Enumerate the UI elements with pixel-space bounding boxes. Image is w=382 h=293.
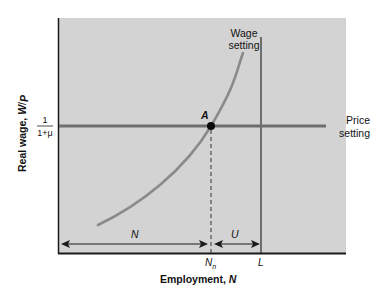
- x-tick-natural-employment: Nn: [205, 257, 216, 272]
- y-tick-numerator: 1: [42, 115, 48, 126]
- price-setting-label-line1: Price: [326, 114, 370, 127]
- plot-panel: [58, 18, 346, 253]
- y-axis-title-p: P: [18, 95, 30, 102]
- y-axis-title: Real wage, W/P: [17, 74, 28, 194]
- unemployment-arrow-label: U: [231, 229, 239, 240]
- wage-setting-label-line1: Wage: [223, 27, 265, 39]
- wage-setting-label: Wage setting: [223, 27, 265, 51]
- price-setting-label: Price setting: [326, 114, 370, 140]
- point-a-label: A: [201, 110, 209, 121]
- x-tick-labor-force: L: [258, 257, 264, 268]
- x-axis-title-n: N: [229, 273, 237, 285]
- x-axis-title: Employment, N: [160, 274, 236, 285]
- diagram-canvas: [0, 0, 382, 293]
- price-setting-label-line2: setting: [326, 127, 370, 140]
- x-axis-title-prefix: Employment,: [160, 273, 229, 285]
- employment-arrow-label: N: [131, 229, 139, 240]
- y-axis-title-slash: /: [16, 102, 28, 105]
- x-tick-nn-sub: n: [212, 263, 216, 270]
- wage-setting-label-line2: setting: [223, 39, 265, 51]
- y-axis-title-w: W: [16, 105, 28, 115]
- y-axis-title-prefix: Real wage,: [16, 115, 28, 172]
- equilibrium-point-a: [207, 122, 215, 130]
- y-tick-denominator: 1+μ: [36, 128, 54, 139]
